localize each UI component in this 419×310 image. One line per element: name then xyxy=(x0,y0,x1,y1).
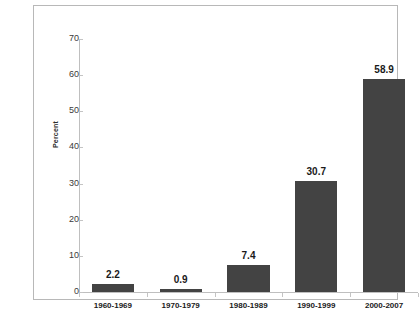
x-axis-tick-mark xyxy=(147,293,148,297)
y-axis-tick-mark xyxy=(79,184,83,185)
x-axis-tick-mark xyxy=(282,293,283,297)
bar-value-label: 30.7 xyxy=(291,166,341,177)
bar xyxy=(363,79,405,292)
y-axis-tick-label: 10 xyxy=(69,250,79,260)
bar xyxy=(295,181,337,292)
y-axis-tick-mark xyxy=(79,39,83,40)
y-axis-tick-label: 20 xyxy=(69,214,79,224)
x-axis-line xyxy=(79,292,418,293)
y-axis-tick-mark xyxy=(79,220,83,221)
x-axis-tick-mark xyxy=(215,293,216,297)
y-axis-tick-mark xyxy=(79,256,83,257)
bar xyxy=(92,284,134,292)
bar-value-label: 2.2 xyxy=(88,269,138,280)
x-axis-tick-mark xyxy=(350,293,351,297)
y-axis-tick-mark xyxy=(79,111,83,112)
y-axis-tick-mark xyxy=(79,75,83,76)
bar-value-label: 58.9 xyxy=(359,64,409,75)
x-axis-tick-mark xyxy=(79,293,80,297)
x-axis-category-label: 1990-1999 xyxy=(281,301,351,310)
y-axis-tick-label: 70 xyxy=(69,33,79,43)
bar xyxy=(160,289,202,292)
y-axis-tick-label: 50 xyxy=(69,105,79,115)
y-axis-tick-label: 30 xyxy=(69,178,79,188)
y-axis-tick-mark xyxy=(79,147,83,148)
chart-frame: Percent 010203040506070 2.20.97.430.758.… xyxy=(33,5,398,300)
bar-value-label: 0.9 xyxy=(156,274,206,285)
x-axis-category-label: 1960-1969 xyxy=(78,301,148,310)
y-axis-tick-label: 40 xyxy=(69,141,79,151)
y-axis-tick-label: 60 xyxy=(69,69,79,79)
x-axis-category-label: 2000-2007 xyxy=(349,301,419,310)
bar xyxy=(227,265,269,292)
x-axis-category-label: 1970-1979 xyxy=(146,301,216,310)
bar-value-label: 7.4 xyxy=(224,250,274,261)
x-axis-category-label: 1980-1989 xyxy=(214,301,284,310)
plot-area: 010203040506070 2.20.97.430.758.9 1960-1… xyxy=(57,23,395,276)
